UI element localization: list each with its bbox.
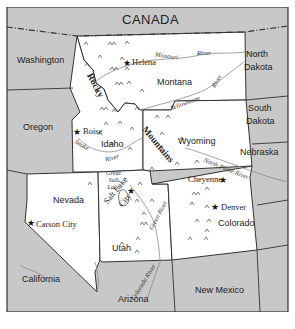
label-south-dakota-1: South [248,104,272,113]
label-great-salt-lake: Great Salt Lake [106,170,121,190]
label-south-dakota-2: Dakota [246,117,275,126]
label-montana: Montana [157,78,192,87]
label-idaho: Idaho [101,140,124,149]
label-utah: Utah [112,244,131,253]
label-cheyenne: Cheyenne [188,175,222,184]
label-helena: Helena [132,58,156,67]
label-nebraska: Nebraska [240,148,279,157]
carson-city-star-icon: ★ [27,218,35,228]
label-washington: Washington [17,56,64,65]
label-wyoming: Wyoming [178,137,215,146]
label-new-mexico: New Mexico [195,286,244,295]
label-denver: Denver [221,203,246,212]
label-north-dakota-2: Dakota [244,63,273,72]
label-north-dakota-1: North [246,50,268,59]
label-missouri-river: River [197,50,211,57]
label-oregon: Oregon [23,123,53,132]
boise-star-icon: ★ [73,127,81,137]
label-boise: Boise [83,127,102,136]
label-colorado: Colorado [218,219,255,228]
label-carson-city: Carson City [36,220,77,229]
helena-star-icon: ★ [123,58,131,68]
lake-line-3: Lake [106,184,121,191]
label-california: California [22,275,60,284]
label-canada: CANADA [122,13,179,26]
label-nevada: Nevada [53,196,84,205]
denver-star-icon: ★ [211,202,219,212]
